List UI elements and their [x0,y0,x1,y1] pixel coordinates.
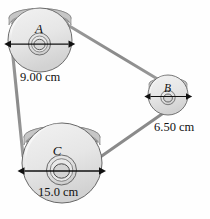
pulley-c-diameter-label: 15.0 cm [38,185,79,199]
pulley-b: B [148,75,188,115]
pulley-a-label: A [34,21,43,36]
pulley-c-label: C [53,143,62,158]
pulley-diagram: A B C 9.00 cm 6.50 cm 15.0 cm [0,0,210,219]
belt-segment-c-a [13,52,24,156]
pulley-b-label: B [164,82,171,94]
pulley-b-diameter-label: 6.50 cm [154,120,195,134]
pulley-a: A [8,8,72,72]
belt-segment-a-b [69,26,171,87]
pulley-a-diameter-label: 9.00 cm [20,70,61,84]
pulley-b-hub-bore [164,94,173,102]
